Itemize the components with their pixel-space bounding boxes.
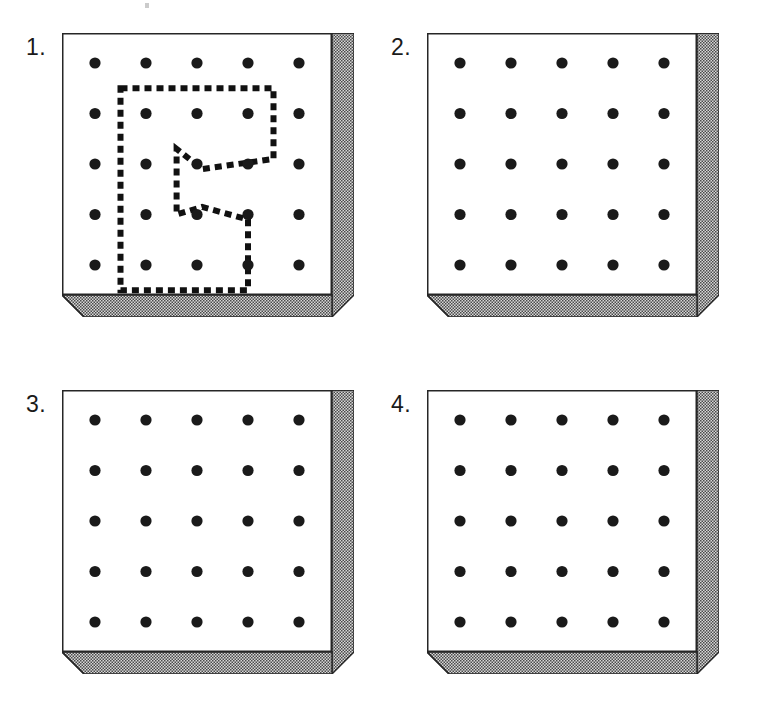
board-bottom-edge [62, 295, 332, 317]
peg-dot [242, 414, 253, 425]
board-bottom-edge [427, 652, 697, 674]
peg-dot [607, 616, 618, 627]
board-right-edge [332, 390, 354, 674]
peg-dot [242, 158, 253, 169]
panel-1 [62, 33, 354, 317]
peg-dot [293, 414, 304, 425]
peg-dot [556, 515, 567, 526]
peg-dot [505, 414, 516, 425]
peg-dot [140, 158, 151, 169]
peg-dot [454, 465, 465, 476]
peg-dot [89, 259, 100, 270]
peg-dot [556, 414, 567, 425]
peg-dot [505, 616, 516, 627]
peg-dot [454, 158, 465, 169]
peg-dot [293, 158, 304, 169]
peg-dot [89, 515, 100, 526]
peg-dot [191, 616, 202, 627]
peg-dot [140, 616, 151, 627]
pegboard-2 [427, 33, 719, 317]
peg-dot [89, 616, 100, 627]
pegboard-3 [62, 390, 354, 674]
peg-dot [191, 465, 202, 476]
peg-dot [505, 57, 516, 68]
peg-dot [658, 108, 669, 119]
peg-dot [454, 209, 465, 220]
peg-dot [191, 259, 202, 270]
panel-2 [427, 33, 719, 317]
peg-dot [191, 414, 202, 425]
peg-dot [658, 465, 669, 476]
peg-dot [607, 57, 618, 68]
figure-canvas: 1.2.3.4. [0, 0, 765, 717]
peg-dot [242, 209, 253, 220]
peg-dot [242, 465, 253, 476]
peg-dot [556, 57, 567, 68]
peg-dot [658, 566, 669, 577]
peg-dot [89, 414, 100, 425]
peg-dot [140, 465, 151, 476]
peg-dot [89, 158, 100, 169]
peg-dot [293, 465, 304, 476]
peg-dot [140, 259, 151, 270]
peg-dot [191, 158, 202, 169]
peg-dot [454, 515, 465, 526]
panel-3 [62, 390, 354, 674]
peg-dot [505, 108, 516, 119]
peg-dot [454, 108, 465, 119]
peg-dot [454, 414, 465, 425]
peg-dot [607, 158, 618, 169]
pegboard-4 [427, 390, 719, 674]
peg-dot [293, 515, 304, 526]
peg-dot [658, 158, 669, 169]
board-right-edge [697, 33, 719, 317]
peg-dot [293, 616, 304, 627]
peg-dot [607, 465, 618, 476]
board-bottom-edge [62, 652, 332, 674]
peg-dot [242, 616, 253, 627]
peg-dot [89, 209, 100, 220]
scan-speck-top [145, 3, 149, 8]
peg-dot [556, 108, 567, 119]
peg-dot [140, 515, 151, 526]
peg-dot [505, 259, 516, 270]
peg-dot [89, 108, 100, 119]
peg-dot [140, 108, 151, 119]
board-bottom-edge [427, 295, 697, 317]
peg-dot [607, 108, 618, 119]
peg-dot [293, 108, 304, 119]
peg-dot [454, 566, 465, 577]
peg-dot [505, 566, 516, 577]
peg-dot [607, 515, 618, 526]
peg-dot [293, 566, 304, 577]
peg-dot [140, 566, 151, 577]
peg-dot [607, 566, 618, 577]
board-right-edge [697, 390, 719, 674]
panel-3-label: 3. [26, 393, 46, 416]
peg-dot [658, 209, 669, 220]
peg-dot [191, 566, 202, 577]
peg-dot [242, 108, 253, 119]
peg-dot [556, 158, 567, 169]
peg-dot [658, 515, 669, 526]
peg-dot [505, 158, 516, 169]
panel-4-label: 4. [391, 393, 411, 416]
peg-dot [293, 259, 304, 270]
peg-dot [658, 57, 669, 68]
peg-dot [658, 616, 669, 627]
panel-4 [427, 390, 719, 674]
peg-dot [191, 57, 202, 68]
peg-dot [140, 209, 151, 220]
peg-dot [242, 57, 253, 68]
peg-dot [293, 209, 304, 220]
peg-dot [89, 465, 100, 476]
peg-dot [191, 515, 202, 526]
peg-dot [242, 515, 253, 526]
panel-1-label: 1. [26, 36, 46, 59]
pegboard-1 [62, 33, 354, 317]
peg-dot [607, 414, 618, 425]
peg-dot [658, 414, 669, 425]
peg-dot [556, 209, 567, 220]
peg-dot [454, 57, 465, 68]
peg-dot [191, 108, 202, 119]
